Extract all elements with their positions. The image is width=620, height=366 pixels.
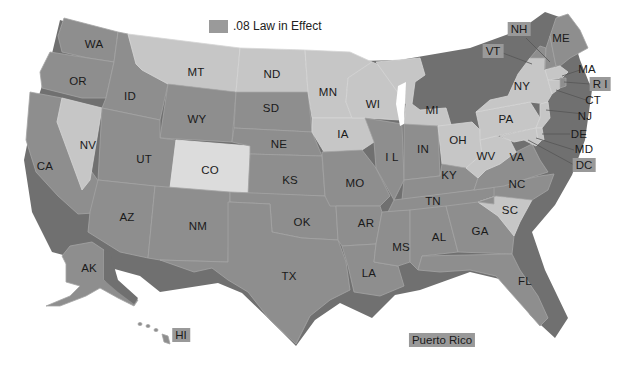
label-mo: MO xyxy=(346,177,365,189)
label-nc: NC xyxy=(508,178,525,190)
label-oh: OH xyxy=(449,134,467,146)
label-va: VA xyxy=(510,151,525,163)
label-tx: TX xyxy=(281,270,296,282)
label-ne: NE xyxy=(271,138,287,150)
label-ks: KS xyxy=(282,174,298,186)
label-nd: ND xyxy=(263,68,280,80)
label-ca: CA xyxy=(37,160,53,172)
label-il: I L xyxy=(385,151,398,163)
label-id: ID xyxy=(124,90,136,102)
label-wy: WY xyxy=(188,113,207,125)
label-ga: GA xyxy=(471,225,488,237)
label-sc: SC xyxy=(502,204,518,216)
label-de: DE xyxy=(571,128,587,140)
legend: .08 Law in Effect xyxy=(209,19,322,33)
label-wa: WA xyxy=(85,38,104,50)
label-wi: WI xyxy=(366,98,380,110)
state-hi[interactable] xyxy=(138,323,170,345)
label-nh: NH xyxy=(508,22,531,36)
label-ms: MS xyxy=(392,241,410,253)
label-mi: MI xyxy=(425,104,438,116)
label-sd: SD xyxy=(263,102,279,114)
label-hi: HI xyxy=(172,328,190,342)
label-ut: UT xyxy=(136,153,152,165)
us-map xyxy=(0,0,620,366)
label-ky: KY xyxy=(441,169,457,181)
label-mn: MN xyxy=(319,86,337,98)
label-me: ME xyxy=(552,32,570,44)
legend-label: .08 Law in Effect xyxy=(233,19,322,33)
label-az: AZ xyxy=(119,211,134,223)
label-al: AL xyxy=(432,231,446,243)
label-ma: MA xyxy=(578,63,596,75)
label-nm: NM xyxy=(189,220,207,232)
state-ri[interactable] xyxy=(560,78,566,88)
label-md: MD xyxy=(575,143,593,155)
label-ia: IA xyxy=(337,128,348,140)
label-pa: PA xyxy=(499,113,514,125)
label-co: CO xyxy=(201,164,219,176)
label-wv: WV xyxy=(477,150,496,162)
label-la: LA xyxy=(362,267,376,279)
label-vt: VT xyxy=(483,44,504,58)
label-mt: MT xyxy=(187,66,204,78)
legend-swatch xyxy=(209,20,228,33)
label-fl: FL xyxy=(518,275,532,287)
label-ct: CT xyxy=(585,94,601,106)
label-ak: AK xyxy=(81,262,97,274)
label-puerto-rico: Puerto Rico xyxy=(409,333,475,347)
label-in: IN xyxy=(417,143,429,155)
label-ok: OK xyxy=(293,216,310,228)
label-ny: NY xyxy=(514,80,530,92)
label-or: OR xyxy=(69,75,87,87)
label-ar: AR xyxy=(358,217,374,229)
label-nv: NV xyxy=(80,139,96,151)
label-tn: TN xyxy=(425,195,441,207)
label-nj: NJ xyxy=(578,110,592,122)
label-ri: R I xyxy=(590,77,611,91)
label-dc: DC xyxy=(573,158,596,172)
